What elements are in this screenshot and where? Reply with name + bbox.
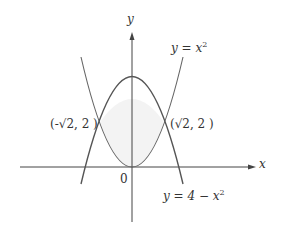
point-label-left-intersection: (-√2, 2 ) xyxy=(50,117,98,131)
equation-text: y = x xyxy=(171,41,202,55)
x-axis-label: x xyxy=(259,157,266,171)
label-y-equals-x-squared: y = x2 xyxy=(171,40,207,55)
graph-canvas xyxy=(0,0,282,233)
y-axis-label: y xyxy=(127,12,134,26)
exponent: 2 xyxy=(220,188,225,197)
label-y-equals-4-minus-x-squared: y = 4 − x2 xyxy=(163,188,225,203)
x-axis-arrow xyxy=(248,165,256,170)
exponent: 2 xyxy=(202,40,207,49)
origin-label: 0 xyxy=(120,172,128,186)
point-label-right-intersection: (√2, 2 ) xyxy=(170,117,214,131)
equation-text: y = 4 − x xyxy=(163,189,220,203)
y-axis-arrow xyxy=(130,32,135,40)
